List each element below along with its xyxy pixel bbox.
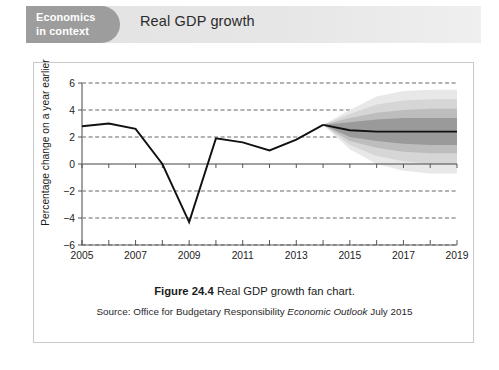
x-tick-label: 2007 <box>124 250 147 261</box>
fan-chart: 6420−2−4−6200520072009201120132015201720… <box>34 63 475 281</box>
figure-container: Percentage change on a year earlier 6420… <box>33 62 474 343</box>
y-tick-label: −2 <box>63 186 75 197</box>
source-suffix: July 2015 <box>370 306 412 317</box>
source-prefix: Source: Office for Budgetary Responsibil… <box>96 306 284 317</box>
plot-area: Percentage change on a year earlier 6420… <box>34 63 475 281</box>
badge-line-2: in context <box>36 25 120 39</box>
figure-caption-block: Figure 24.4 Real GDP growth fan chart. S… <box>34 285 475 317</box>
page-title: Real GDP growth <box>140 13 255 29</box>
x-tick-label: 2015 <box>338 250 361 261</box>
y-tick-label: 0 <box>69 159 75 170</box>
x-tick-label: 2019 <box>446 250 469 261</box>
x-tick-label: 2005 <box>71 250 94 261</box>
figure-source: Source: Office for Budgetary Responsibil… <box>34 306 475 317</box>
y-tick-label: 4 <box>69 105 75 116</box>
x-tick-label: 2009 <box>178 250 201 261</box>
figure-caption: Figure 24.4 Real GDP growth fan chart. <box>34 285 475 297</box>
y-tick-label: −4 <box>63 213 75 224</box>
economics-in-context-badge: Economics in context <box>26 6 120 43</box>
x-tick-label: 2017 <box>392 250 415 261</box>
badge-line-1: Economics <box>36 11 120 25</box>
figure-caption-text: Real GDP growth fan chart. <box>217 285 355 297</box>
figure-number: Figure 24.4 <box>154 285 214 297</box>
x-tick-label: 2011 <box>232 250 254 261</box>
y-tick-label: 6 <box>69 78 75 89</box>
y-tick-label: 2 <box>69 132 75 143</box>
x-tick-label: 2013 <box>285 250 308 261</box>
data-line <box>82 124 323 223</box>
source-publication: Economic Outlook <box>287 306 367 317</box>
